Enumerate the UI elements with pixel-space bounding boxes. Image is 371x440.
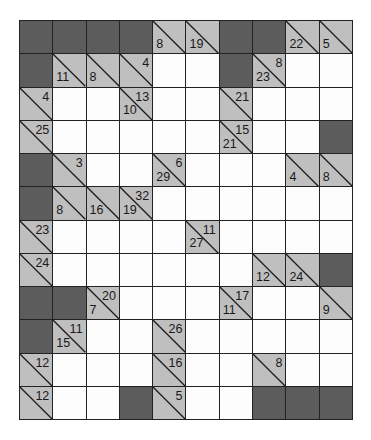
entry-cell[interactable]: [153, 221, 185, 253]
entry-cell[interactable]: [87, 121, 119, 153]
entry-cell[interactable]: [120, 320, 152, 352]
entry-cell[interactable]: [320, 221, 352, 253]
entry-cell[interactable]: [87, 354, 119, 386]
entry-cell[interactable]: [286, 287, 318, 319]
entry-cell[interactable]: [220, 254, 252, 286]
clue-cell: 4: [286, 154, 318, 186]
clue-cell: 1932: [120, 187, 152, 219]
entry-cell[interactable]: [286, 121, 318, 153]
entry-cell[interactable]: [120, 354, 152, 386]
entry-cell[interactable]: [120, 221, 152, 253]
entry-cell[interactable]: [186, 287, 218, 319]
clue-cell: 2115: [220, 121, 252, 153]
entry-cell[interactable]: [153, 187, 185, 219]
across-clue: 16: [169, 357, 183, 370]
entry-cell[interactable]: [153, 121, 185, 153]
entry-cell[interactable]: [53, 387, 85, 419]
entry-cell[interactable]: [220, 187, 252, 219]
entry-cell[interactable]: [153, 88, 185, 120]
entry-cell[interactable]: [286, 54, 318, 86]
entry-cell[interactable]: [87, 221, 119, 253]
entry-cell[interactable]: [120, 154, 152, 186]
kakuro-board: 8192251184238410132125211532964881619322…: [19, 20, 353, 420]
block-cell: [253, 387, 285, 419]
entry-cell[interactable]: [253, 221, 285, 253]
clue-cell: 238: [253, 54, 285, 86]
entry-cell[interactable]: [87, 254, 119, 286]
entry-cell[interactable]: [87, 320, 119, 352]
entry-cell[interactable]: [220, 154, 252, 186]
block-cell: [320, 254, 352, 286]
clue-cell: 1013: [120, 88, 152, 120]
entry-cell[interactable]: [320, 187, 352, 219]
entry-cell[interactable]: [253, 320, 285, 352]
entry-cell[interactable]: [220, 320, 252, 352]
entry-cell[interactable]: [120, 287, 152, 319]
across-clue: 4: [142, 57, 149, 70]
entry-cell[interactable]: [120, 121, 152, 153]
block-cell: [20, 187, 52, 219]
across-clue: 20: [102, 290, 116, 303]
entry-cell[interactable]: [320, 54, 352, 86]
entry-cell[interactable]: [53, 354, 85, 386]
entry-cell[interactable]: [253, 88, 285, 120]
across-clue: 15: [235, 124, 249, 137]
entry-cell[interactable]: [186, 187, 218, 219]
entry-cell[interactable]: [87, 88, 119, 120]
entry-cell[interactable]: [186, 154, 218, 186]
clue-cell: 9: [320, 287, 352, 319]
entry-cell[interactable]: [253, 287, 285, 319]
clue-cell: 720: [87, 287, 119, 319]
entry-cell[interactable]: [53, 221, 85, 253]
entry-cell[interactable]: [186, 54, 218, 86]
entry-cell[interactable]: [286, 88, 318, 120]
clue-cell: 5: [320, 21, 352, 53]
entry-cell[interactable]: [153, 254, 185, 286]
entry-cell[interactable]: [186, 354, 218, 386]
block-cell: [253, 21, 285, 53]
block-cell: [20, 320, 52, 352]
down-clue: 8: [323, 171, 330, 184]
entry-cell[interactable]: [53, 88, 85, 120]
entry-cell[interactable]: [153, 54, 185, 86]
entry-cell[interactable]: [186, 387, 218, 419]
entry-cell[interactable]: [253, 187, 285, 219]
across-clue: 25: [35, 124, 49, 137]
entry-cell[interactable]: [286, 320, 318, 352]
down-clue: 8: [156, 38, 163, 51]
entry-cell[interactable]: [87, 154, 119, 186]
entry-cell[interactable]: [53, 121, 85, 153]
across-clue: 13: [135, 91, 149, 104]
entry-cell[interactable]: [186, 320, 218, 352]
entry-cell[interactable]: [286, 221, 318, 253]
entry-cell[interactable]: [320, 354, 352, 386]
block-cell: [220, 54, 252, 86]
down-clue: 11: [223, 304, 236, 317]
block-cell: [120, 21, 152, 53]
entry-cell[interactable]: [53, 254, 85, 286]
entry-cell[interactable]: [186, 254, 218, 286]
entry-cell[interactable]: [286, 354, 318, 386]
entry-cell[interactable]: [253, 154, 285, 186]
across-clue: 26: [169, 323, 183, 336]
clue-cell: 12: [253, 254, 285, 286]
entry-cell[interactable]: [120, 254, 152, 286]
entry-cell[interactable]: [320, 88, 352, 120]
across-clue: 24: [35, 257, 49, 270]
entry-cell[interactable]: [286, 187, 318, 219]
entry-cell[interactable]: [320, 320, 352, 352]
entry-cell[interactable]: [253, 121, 285, 153]
entry-cell[interactable]: [220, 354, 252, 386]
entry-cell[interactable]: [87, 387, 119, 419]
across-clue: 8: [275, 57, 282, 70]
entry-cell[interactable]: [220, 387, 252, 419]
entry-cell[interactable]: [186, 121, 218, 153]
down-clue: 11: [56, 71, 69, 84]
entry-cell[interactable]: [220, 221, 252, 253]
down-clue: 8: [90, 71, 97, 84]
down-clue: 27: [189, 237, 203, 250]
across-clue: 3: [76, 157, 83, 170]
across-clue: 11: [70, 323, 83, 336]
entry-cell[interactable]: [186, 88, 218, 120]
entry-cell[interactable]: [153, 287, 185, 319]
